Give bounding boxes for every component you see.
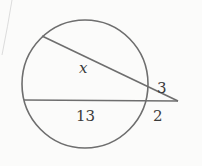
- label-lower-internal: 13: [76, 107, 95, 125]
- label-x: x: [79, 59, 88, 77]
- lower-secant-line: [24, 100, 178, 101]
- label-upper-external: 3: [157, 79, 167, 97]
- circle: [22, 20, 148, 148]
- secant-diagram: x 3 13 2: [0, 0, 202, 166]
- label-lower-external: 2: [153, 107, 163, 125]
- scan-artifact-line: [2, 0, 12, 55]
